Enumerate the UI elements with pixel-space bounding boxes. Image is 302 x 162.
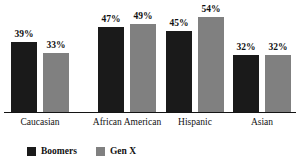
legend-label: Gen X	[110, 146, 136, 156]
bar-item: 47%	[98, 4, 124, 112]
bar-value-label: 45%	[170, 18, 189, 29]
bar-value-label: 32%	[269, 42, 288, 53]
bar-item: 45%	[166, 4, 192, 112]
bar-genx	[43, 53, 69, 112]
x-axis-labels: Caucasian African American Hispanic Asia…	[0, 116, 302, 132]
x-tick-label: Caucasian	[4, 116, 76, 129]
chart-legend: Boomers Gen X	[27, 146, 148, 156]
bar-genx	[198, 17, 224, 112]
legend-label: Boomers	[41, 146, 77, 156]
bar-boomers	[98, 27, 124, 112]
bar-group: 45% 54%	[159, 4, 231, 112]
chart-title	[6, 0, 256, 3]
bar-item: 33%	[43, 4, 69, 112]
legend-swatch-icon	[27, 147, 36, 156]
bar-value-label: 33%	[47, 40, 66, 51]
bar-boomers	[233, 55, 259, 112]
bar-boomers	[11, 42, 37, 112]
bar-value-label: 54%	[202, 4, 221, 15]
bar-value-label: 32%	[237, 42, 256, 53]
bar-genx	[130, 24, 156, 112]
bar-group: 47% 49%	[91, 4, 163, 112]
bar-value-label: 49%	[134, 11, 153, 22]
x-axis-line	[4, 112, 296, 113]
plot-area: 39% 33% 47% 49%	[0, 4, 302, 112]
bar-chart: 39% 33% 47% 49%	[0, 0, 302, 162]
legend-swatch-icon	[96, 147, 105, 156]
bar-item: 32%	[233, 4, 259, 112]
bar-item: 39%	[11, 4, 37, 112]
bar-value-label: 47%	[102, 14, 121, 25]
bar-item: 49%	[130, 4, 156, 112]
x-tick-label: Hispanic	[159, 116, 231, 129]
x-tick-label: African American	[91, 116, 163, 129]
bar-item: 54%	[198, 4, 224, 112]
bar-value-label: 39%	[15, 29, 34, 40]
legend-item-boomers: Boomers	[27, 146, 77, 156]
bar-item: 32%	[265, 4, 291, 112]
bar-boomers	[166, 31, 192, 112]
bar-group: 32% 32%	[226, 4, 298, 112]
bar-genx	[265, 55, 291, 112]
bar-group: 39% 33%	[4, 4, 76, 112]
legend-item-genx: Gen X	[96, 146, 136, 156]
x-tick-label: Asian	[226, 116, 298, 129]
